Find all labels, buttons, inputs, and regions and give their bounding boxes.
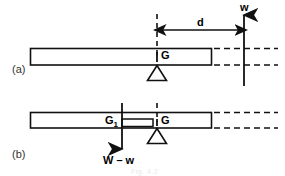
force-label-w-minus-w: W – w [103, 155, 134, 166]
centroid-label-b-left: G1 [105, 115, 118, 129]
beam-a [31, 49, 212, 66]
beam-b [31, 113, 212, 129]
force-label-w: w [240, 2, 249, 13]
fulcrum-b [148, 129, 167, 144]
panel-label-b: (b) [12, 149, 25, 160]
centroid-label-b-left-subscript: 1 [114, 120, 118, 129]
beam-balance-diagram [0, 0, 285, 176]
centroid-label-a: G [161, 50, 170, 61]
figure-caption: Fig. 4.2 [131, 168, 158, 175]
panel-label-a: (a) [12, 64, 25, 75]
inner-section-b [122, 119, 153, 127]
distance-label-d: d [197, 17, 204, 28]
fulcrum-a [148, 66, 167, 81]
centroid-label-b: G [161, 115, 170, 126]
centroid-label-b-left-text: G [105, 114, 114, 126]
